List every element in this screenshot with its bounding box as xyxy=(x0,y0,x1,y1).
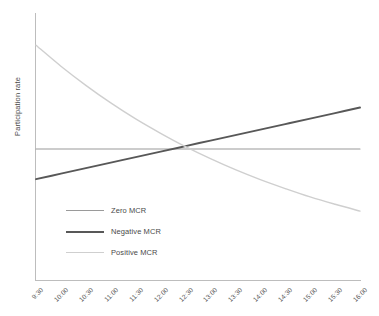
chart-container: Participation rate 9:3010:0010:3011:0011… xyxy=(0,0,379,316)
legend-swatch-negative-mcr xyxy=(66,231,104,233)
legend-label-zero-mcr: Zero MCR xyxy=(111,206,146,215)
series-line-positive-mcr xyxy=(36,45,360,211)
legend-swatch-zero-mcr xyxy=(66,210,104,211)
legend-label-negative-mcr: Negative MCR xyxy=(111,227,161,236)
legend-item-zero-mcr[interactable]: Zero MCR xyxy=(66,200,216,221)
legend-item-positive-mcr[interactable]: Positive MCR xyxy=(66,242,216,263)
legend-swatch-positive-mcr xyxy=(66,252,104,253)
series-line-negative-mcr xyxy=(36,108,360,180)
chart-legend: Zero MCR Negative MCR Positive MCR xyxy=(66,200,216,263)
chart-plot-svg xyxy=(0,0,379,316)
legend-label-positive-mcr: Positive MCR xyxy=(111,248,158,257)
legend-item-negative-mcr[interactable]: Negative MCR xyxy=(66,221,216,242)
data-series-layer xyxy=(36,45,360,211)
